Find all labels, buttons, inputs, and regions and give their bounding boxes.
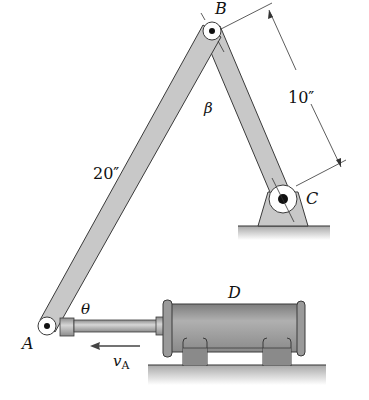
- link-bc: [204, 26, 291, 204]
- label-a: A: [20, 334, 34, 353]
- pin-a: [38, 317, 56, 335]
- label-theta: θ: [81, 300, 90, 318]
- ground-support-c: [238, 226, 330, 240]
- ground-support-d: [148, 365, 326, 385]
- label-b: B: [214, 0, 227, 18]
- label-c: C: [306, 189, 318, 208]
- clevis-a: [60, 318, 74, 336]
- label-beta: β: [203, 99, 213, 117]
- hydraulic-cylinder-d: [163, 300, 305, 366]
- label-d: D: [227, 283, 241, 302]
- piston-rod: [74, 320, 162, 332]
- velocity-arrow: [90, 342, 140, 350]
- label-velocity: vA: [113, 352, 130, 372]
- mechanism-diagram: A B C D θ β vA 20″ 10″: [0, 0, 369, 400]
- link-ab: [40, 25, 221, 332]
- dimension-label-ab: 20″: [93, 164, 119, 183]
- dimension-label-bc: 10″: [288, 88, 314, 107]
